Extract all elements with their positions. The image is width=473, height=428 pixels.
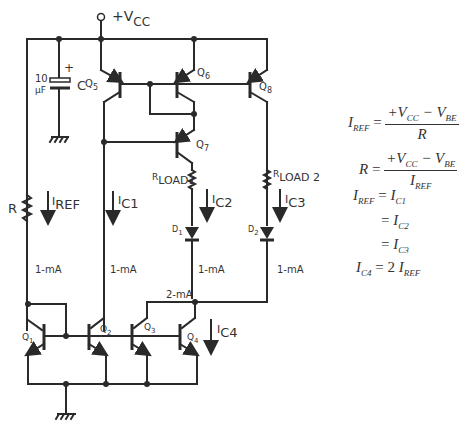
svg-text:1-mA: 1-mA <box>35 264 62 275</box>
ground-icon <box>56 414 75 419</box>
svg-text:IC1: IC1 <box>118 194 139 211</box>
diode-d1: D1 1-mA <box>172 225 225 298</box>
transistor-q4: Q4 <box>180 302 199 384</box>
bottom-rail <box>28 381 197 419</box>
equation-ic3: = IC3 <box>381 236 409 255</box>
svg-text:D2: D2 <box>248 225 259 237</box>
svg-text:Q1: Q1 <box>22 332 34 345</box>
equation-iref: IREF = +VCC − VBER <box>348 104 459 143</box>
svg-text:IREF: IREF <box>52 195 80 212</box>
svg-text:Q3: Q3 <box>144 322 156 335</box>
svg-text:1-mA: 1-mA <box>277 264 304 275</box>
equation-iref-ic1: IREF = IC1 <box>353 187 406 206</box>
svg-text:+: + <box>64 61 74 75</box>
svg-text:1-mA: 1-mA <box>198 264 225 275</box>
ic4-arrow: IC4 <box>211 320 238 348</box>
equation-r: R = +VCC − VBEIREF <box>359 150 457 191</box>
svg-text:IC2: IC2 <box>212 193 233 210</box>
equation-ic2: = IC2 <box>381 212 409 231</box>
transistor-q2: Q2 <box>89 304 112 384</box>
svg-text:RLOAD1: RLOAD1 <box>152 172 195 187</box>
equation-ic4: IC4 = 2 IREF <box>356 259 420 278</box>
node-2ma: 2-mA <box>147 289 267 305</box>
diode-d2: D2 1-mA <box>248 225 304 302</box>
transistor-q8: Q8 <box>194 39 272 190</box>
svg-text:10: 10 <box>35 73 48 84</box>
transistor-q7: Q7 <box>104 130 209 170</box>
iref-arrow: IREF 1-mA <box>35 192 80 275</box>
svg-text:D1: D1 <box>172 225 183 237</box>
svg-text:Q7: Q7 <box>196 139 209 153</box>
transistor-q5: Q5 <box>85 39 120 330</box>
svg-text:2-mA: 2-mA <box>166 289 193 300</box>
transistor-q1: Q1 <box>22 301 66 384</box>
svg-text:µF: µF <box>35 85 46 95</box>
svg-text:Q8: Q8 <box>259 81 272 95</box>
svg-text:RLOAD 2: RLOAD 2 <box>273 169 320 184</box>
transistor-q3: Q3 <box>132 302 156 384</box>
svg-text:R: R <box>8 201 17 216</box>
ic1-arrow: IC1 1-mA <box>110 192 139 275</box>
svg-text:Q5: Q5 <box>85 78 98 92</box>
svg-text:Q6: Q6 <box>197 67 210 81</box>
ic2-arrow: IC2 <box>207 190 233 215</box>
ground-icon <box>50 137 68 142</box>
svg-text:IC4: IC4 <box>217 323 238 340</box>
svg-text:IC3: IC3 <box>285 193 306 210</box>
svg-text:Q4: Q4 <box>187 332 199 345</box>
svg-text:+VCC: +VCC <box>112 8 150 29</box>
rload1: RLOAD1 <box>152 170 195 225</box>
vcc-terminal: +VCC <box>98 8 151 39</box>
capacitor: + 10 µF C <box>35 39 86 142</box>
ic3-arrow: IC3 <box>280 190 306 215</box>
svg-text:1-mA: 1-mA <box>110 264 137 275</box>
